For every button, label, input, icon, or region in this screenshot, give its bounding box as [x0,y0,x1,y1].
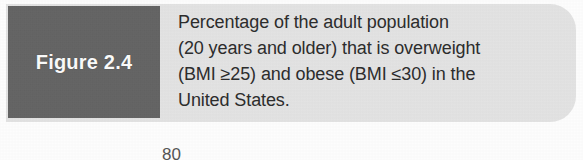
figure-number-label: Figure 2.4 [36,51,132,74]
scanned-page: Figure 2.4 Percentage of the adult popul… [0,0,583,160]
chart-y-axis-tick-value: 80 [162,146,181,160]
caption-line: Percentage of the adult population [178,9,570,35]
chart-y-axis-tick-label: 80 [152,146,212,160]
caption-line: United States. [178,87,570,113]
caption-line: (20 years and older) that is overweight [178,35,570,61]
figure-number-tab: Figure 2.4 [8,6,160,118]
figure-caption: Percentage of the adult population (20 y… [178,9,570,113]
caption-line: (BMI ≥25) and obese (BMI ≤30) in the [178,61,570,87]
